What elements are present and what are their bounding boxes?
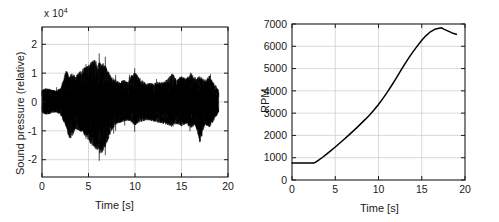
svg-text:20: 20 bbox=[459, 183, 471, 195]
svg-text:1000: 1000 bbox=[264, 151, 288, 163]
svg-text:0: 0 bbox=[289, 183, 295, 195]
svg-text:2: 2 bbox=[31, 38, 37, 50]
sound-pressure-plot-area: 05101520-2-1012 bbox=[0, 0, 250, 222]
engine-speed-plot-area: 0510152001000200030004000500060007000 bbox=[250, 0, 499, 222]
svg-text:-2: -2 bbox=[28, 153, 37, 165]
svg-text:5000: 5000 bbox=[264, 62, 288, 74]
svg-text:0: 0 bbox=[281, 174, 287, 186]
engine-speed-panel: 0510152001000200030004000500060007000 RP… bbox=[250, 0, 499, 222]
svg-text:-1: -1 bbox=[28, 125, 37, 137]
svg-text:15: 15 bbox=[176, 180, 188, 192]
svg-text:7000: 7000 bbox=[264, 18, 288, 30]
engine-speed-y-axis-title: RPM bbox=[259, 89, 271, 113]
sound-pressure-panel: x 104 05101520-2-1012 Sound pressure (re… bbox=[0, 0, 250, 222]
svg-text:5: 5 bbox=[332, 183, 338, 195]
figure-two-panel-plot: x 104 05101520-2-1012 Sound pressure (re… bbox=[0, 0, 499, 222]
svg-text:20: 20 bbox=[222, 180, 234, 192]
svg-text:15: 15 bbox=[416, 183, 428, 195]
sound-pressure-x-axis-title: Time [s] bbox=[95, 199, 134, 211]
svg-text:2000: 2000 bbox=[264, 129, 288, 141]
svg-text:10: 10 bbox=[373, 183, 385, 195]
svg-text:0: 0 bbox=[31, 96, 37, 108]
svg-text:0: 0 bbox=[39, 180, 45, 192]
sound-pressure-y-axis-title: Sound pressure (relative) bbox=[14, 51, 26, 175]
svg-text:6000: 6000 bbox=[264, 40, 288, 52]
engine-speed-x-axis-title: Time [s] bbox=[360, 202, 399, 214]
svg-text:5: 5 bbox=[86, 180, 92, 192]
svg-text:1: 1 bbox=[31, 67, 37, 79]
svg-text:10: 10 bbox=[129, 180, 141, 192]
